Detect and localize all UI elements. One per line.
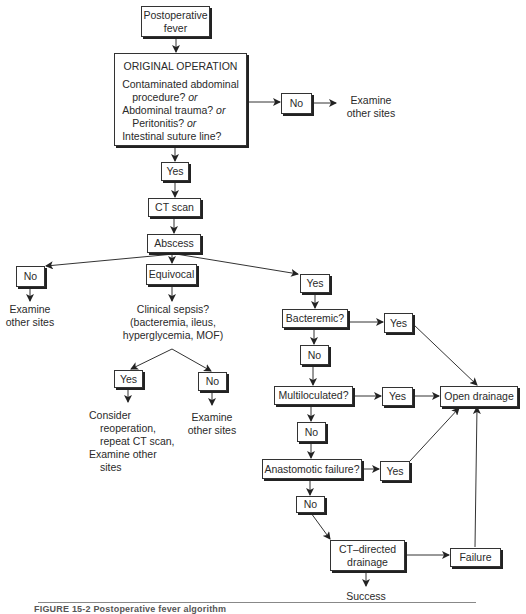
question-contaminated: Contaminated abdominal <box>122 78 239 90</box>
node-label: drainage <box>347 556 388 569</box>
node-multiloculated-yes: Yes <box>382 387 413 406</box>
node-clinical-sepsis: Clinical sepsis? (bacteremia, ileus, hyp… <box>117 303 229 342</box>
node-abscess-no: No <box>16 266 45 287</box>
node-original-operation: ORIGINAL OPERATION Contaminated abdomina… <box>114 53 247 146</box>
node-anastomotic-yes: Yes <box>380 461 410 481</box>
node-sepsis-yes: Yes <box>114 370 143 388</box>
node-failure: Failure <box>450 548 501 567</box>
node-bacteremic-no: No <box>300 345 329 365</box>
sepsis-line: Clinical sepsis? <box>117 303 229 316</box>
node-label: Multiloculated? <box>278 389 348 402</box>
node-label: Yes <box>389 390 406 403</box>
node-abscess: Abscess <box>147 234 201 253</box>
node-label: Yes <box>306 277 323 290</box>
node-label: CT–directed <box>339 543 396 556</box>
abscess-no-result: Examine other sites <box>0 303 62 329</box>
node-multiloculated: Multiloculated? <box>274 386 353 405</box>
op-no-result: Examine other sites <box>338 94 404 120</box>
result-line: other sites <box>0 316 62 329</box>
result-line: other sites <box>338 107 404 120</box>
node-label: CT scan <box>155 201 194 214</box>
result-line: repeat CT scan, <box>89 435 179 448</box>
original-operation-questions: Contaminated abdominal procedure? or Abd… <box>122 78 239 143</box>
node-label: Abscess <box>154 237 194 250</box>
sepsis-no-result: Examine other sites <box>180 411 244 437</box>
node-anastomotic-no: No <box>296 496 325 513</box>
result-line: Examine <box>180 411 244 424</box>
node-abscess-yes: Yes <box>300 274 330 293</box>
sepsis-yes-result: Consider reoperation, repeat CT scan, Ex… <box>89 409 179 474</box>
node-bacteremic: Bacteremic? <box>282 309 348 328</box>
node-label: Yes <box>120 373 137 386</box>
node-label: No <box>24 270 37 283</box>
node-label: Yes <box>386 465 403 478</box>
question-trauma: Abdominal trauma? <box>122 104 213 116</box>
figure-caption: FIGURE 15-2 Postoperative fever algorith… <box>34 604 226 614</box>
node-equivocal: Equivocal <box>146 264 197 285</box>
result-line: Examine other <box>89 448 179 461</box>
node-label: Anastomotic failure? <box>264 463 359 476</box>
node-sepsis-no: No <box>198 372 227 391</box>
or-label: or <box>187 117 196 129</box>
node-label: No <box>305 426 318 439</box>
node-label: Failure <box>459 551 491 564</box>
node-postoperative-fever: Postoperative fever <box>141 6 210 37</box>
result-line: Consider <box>89 409 179 422</box>
node-label: Open drainage <box>444 390 513 403</box>
node-label: Postoperative fever <box>142 9 209 35</box>
original-operation-title: ORIGINAL OPERATION <box>124 60 238 73</box>
node-op-yes: Yes <box>161 162 189 181</box>
question-suture-line: Intestinal suture line? <box>122 130 221 142</box>
node-multiloculated-no: No <box>297 422 326 442</box>
node-label: Yes <box>166 165 183 178</box>
node-label: No <box>308 349 321 362</box>
caption-divider <box>38 602 476 603</box>
result-line: reoperation, <box>89 422 179 435</box>
result-line: sites <box>89 461 179 474</box>
or-label: or <box>216 104 225 116</box>
node-label: Bacteremic? <box>286 312 344 325</box>
result-line: other sites <box>180 424 244 437</box>
node-label: Equivocal <box>149 268 195 281</box>
node-label: No <box>206 375 219 388</box>
result-line: Examine <box>338 94 404 107</box>
node-bacteremic-yes: Yes <box>384 313 413 333</box>
node-open-drainage: Open drainage <box>440 386 518 407</box>
sepsis-line: (bacteremia, ileus, <box>117 316 229 329</box>
result-line: Examine <box>0 303 62 316</box>
node-label: No <box>304 498 317 511</box>
question-peritonitis: Peritonitis? <box>132 117 184 129</box>
node-ct-scan: CT scan <box>148 198 201 217</box>
or-label: or <box>188 91 197 103</box>
question-procedure: procedure? <box>132 91 185 103</box>
node-label: No <box>290 97 303 110</box>
node-op-no: No <box>281 93 312 114</box>
node-ct-directed-drainage: CT–directed drainage <box>330 540 405 571</box>
node-label: Yes <box>390 317 407 330</box>
node-anastomotic-failure: Anastomotic failure? <box>262 459 362 479</box>
sepsis-line: hyperglycemia, MOF) <box>117 329 229 342</box>
